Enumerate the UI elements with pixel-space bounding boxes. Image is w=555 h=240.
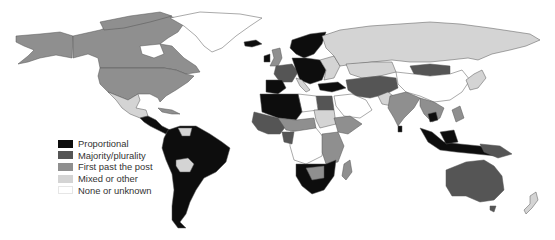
legend-swatch xyxy=(58,175,73,183)
legend-item-first-past-the-post: First past the post xyxy=(58,161,153,173)
region-iceland xyxy=(244,40,262,47)
region-korea-japan xyxy=(466,70,486,90)
region-cuba xyxy=(158,108,180,114)
legend-swatch xyxy=(58,186,73,194)
region-kazakhstan xyxy=(346,62,396,78)
region-new-zealand xyxy=(524,192,538,214)
region-philippines xyxy=(452,106,464,122)
legend-label: First past the post xyxy=(78,161,153,172)
region-australia xyxy=(446,160,504,202)
region-russia xyxy=(322,22,540,66)
region-india xyxy=(388,92,420,126)
region-nigeria xyxy=(282,132,294,144)
legend-item-none-or-unknown: None or unknown xyxy=(58,184,153,196)
region-south-america xyxy=(162,126,230,228)
legend-label: Proportional xyxy=(78,138,129,149)
world-map xyxy=(0,0,555,240)
region-egypt xyxy=(316,96,334,110)
region-papua xyxy=(480,144,512,158)
legend-swatch xyxy=(58,140,73,148)
legend-label: Majority/plurality xyxy=(78,150,146,161)
region-sri-lanka xyxy=(398,126,402,132)
region-united-states xyxy=(98,68,194,102)
legend-swatch xyxy=(58,163,73,171)
region-central-america xyxy=(140,116,170,134)
legend-swatch xyxy=(58,151,73,159)
region-uk xyxy=(270,48,282,66)
legend-label: None or unknown xyxy=(78,185,152,196)
region-france xyxy=(274,64,298,82)
legend-item-proportional: Proportional xyxy=(58,138,153,150)
legend-item-majority-plurality: Majority/plurality xyxy=(58,150,153,162)
map-legend: Proportional Majority/plurality First pa… xyxy=(58,138,153,196)
legend-item-mixed-or-other: Mixed or other xyxy=(58,173,153,185)
region-iberia xyxy=(266,80,286,94)
region-sudan xyxy=(314,110,336,128)
legend-label: Mixed or other xyxy=(78,173,138,184)
region-tasmania xyxy=(490,206,496,212)
region-central-africa xyxy=(290,128,324,164)
region-cambodia xyxy=(428,112,438,122)
region-ireland xyxy=(264,54,270,62)
region-madagascar xyxy=(342,160,352,180)
region-scandinavia xyxy=(290,32,326,58)
region-east-africa xyxy=(322,132,344,164)
region-turkey xyxy=(318,82,346,92)
region-horn-of-africa xyxy=(334,116,362,134)
region-alaska xyxy=(16,32,73,64)
